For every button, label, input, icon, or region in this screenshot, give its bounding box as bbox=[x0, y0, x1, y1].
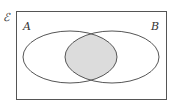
set-a-label: A bbox=[22, 20, 31, 33]
universal-set-symbol: ℰ bbox=[3, 11, 11, 24]
set-b-label: B bbox=[150, 20, 159, 33]
venn-diagram: ℰ A B bbox=[0, 0, 171, 104]
